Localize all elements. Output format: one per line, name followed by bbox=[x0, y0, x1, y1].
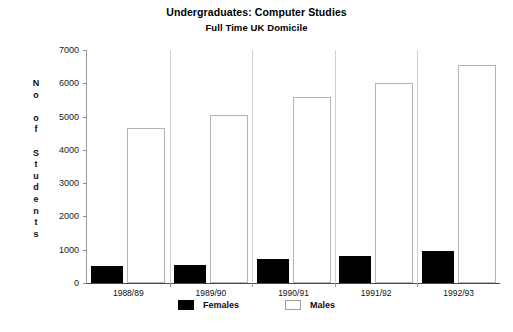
y-axis-title-letter: S bbox=[30, 148, 42, 160]
x-axis-tick-label: 1989/90 bbox=[196, 288, 227, 298]
x-axis-tick-label: 1991/92 bbox=[361, 288, 392, 298]
y-axis-tick bbox=[83, 216, 87, 217]
legend-label: Females bbox=[203, 300, 239, 310]
x-axis-line bbox=[86, 283, 500, 284]
category-separator bbox=[335, 50, 336, 284]
x-axis-tick bbox=[252, 283, 253, 287]
plot-area: 01000200030004000500060007000 1988/89198… bbox=[87, 50, 500, 283]
bar-males bbox=[293, 97, 331, 283]
x-axis-tick-label: 1990/91 bbox=[278, 288, 309, 298]
x-axis-tick bbox=[170, 283, 171, 287]
y-axis-title-letter: u bbox=[30, 171, 42, 183]
chart-title-block: Undergraduates: Computer Studies Full Ti… bbox=[0, 6, 513, 34]
legend-swatch-males bbox=[285, 300, 301, 310]
category-separator bbox=[252, 50, 253, 284]
y-axis-title-letter: o bbox=[30, 113, 42, 125]
y-axis-tick-label: 0 bbox=[74, 279, 79, 288]
y-axis-title-letter: t bbox=[30, 159, 42, 171]
y-axis-tick-label: 1000 bbox=[59, 245, 79, 254]
x-axis-tick bbox=[335, 283, 336, 287]
bar-males bbox=[458, 65, 496, 283]
y-axis-title-letter bbox=[30, 136, 42, 148]
page-title: Undergraduates: Computer Studies bbox=[0, 6, 513, 19]
y-axis-tick-label: 7000 bbox=[59, 46, 79, 55]
x-axis-tick-label: 1992/93 bbox=[443, 288, 474, 298]
chart-subtitle: Full Time UK Domicile bbox=[0, 21, 513, 34]
y-axis-title-letter: d bbox=[30, 182, 42, 194]
y-axis-tick-label: 6000 bbox=[59, 79, 79, 88]
y-axis-title-letter: e bbox=[30, 194, 42, 206]
y-axis-tick-label: 3000 bbox=[59, 179, 79, 188]
chart-legend: FemalesMales bbox=[0, 300, 513, 310]
bar-females bbox=[174, 265, 206, 283]
y-axis-tick-label: 2000 bbox=[59, 212, 79, 221]
y-axis-tick bbox=[83, 150, 87, 151]
y-axis-tick bbox=[83, 117, 87, 118]
y-axis-tick bbox=[83, 250, 87, 251]
bar-chart: Undergraduates: Computer Studies Full Ti… bbox=[0, 0, 513, 332]
y-axis-title-letter: t bbox=[30, 217, 42, 229]
y-axis-title-letter: f bbox=[30, 124, 42, 136]
y-axis-title-letter: o bbox=[30, 90, 42, 102]
bar-males bbox=[375, 83, 413, 283]
y-axis-title: NoofStudents bbox=[30, 78, 42, 240]
legend-item[interactable]: Females bbox=[178, 300, 239, 310]
bar-males bbox=[210, 115, 248, 283]
y-axis-title-letter: N bbox=[30, 78, 42, 90]
bar-females bbox=[257, 259, 289, 283]
bar-females bbox=[91, 266, 123, 283]
bar-males bbox=[127, 128, 165, 283]
x-axis-tick-label: 1988/89 bbox=[113, 288, 144, 298]
y-axis-tick-label: 4000 bbox=[59, 145, 79, 154]
y-axis-tick bbox=[83, 50, 87, 51]
y-axis-title-letter: n bbox=[30, 206, 42, 218]
legend-swatch-females bbox=[178, 300, 194, 310]
x-axis-tick bbox=[417, 283, 418, 287]
category-separator bbox=[170, 50, 171, 284]
bar-females bbox=[339, 256, 371, 283]
y-axis-tick bbox=[83, 183, 87, 184]
y-axis-tick bbox=[83, 283, 87, 284]
legend-item[interactable]: Males bbox=[285, 300, 335, 310]
category-separator bbox=[417, 50, 418, 284]
bar-females bbox=[422, 251, 454, 283]
y-axis-tick-label: 5000 bbox=[59, 112, 79, 121]
y-axis-title-letter bbox=[30, 101, 42, 113]
y-axis-tick bbox=[83, 83, 87, 84]
legend-label: Males bbox=[310, 300, 335, 310]
y-axis-title-letter: s bbox=[30, 229, 42, 241]
